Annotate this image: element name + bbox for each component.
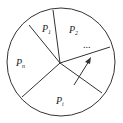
spinner-diagram: P1 P2 ... Pi Pn: [0, 0, 123, 123]
pointer-arrow: [74, 57, 91, 85]
arrow-head-icon: [85, 57, 91, 64]
sector-label-p2: P2: [68, 24, 78, 36]
sector-label-p1: P1: [41, 23, 51, 35]
arrow-shaft: [74, 61, 89, 85]
sector-ellipsis: ...: [83, 39, 91, 50]
divider-pi-pn: [22, 63, 60, 97]
divider-right-pi: [60, 63, 102, 93]
sector-label-pi: Pi: [55, 95, 64, 107]
sector-label-pn: Pn: [15, 57, 25, 69]
